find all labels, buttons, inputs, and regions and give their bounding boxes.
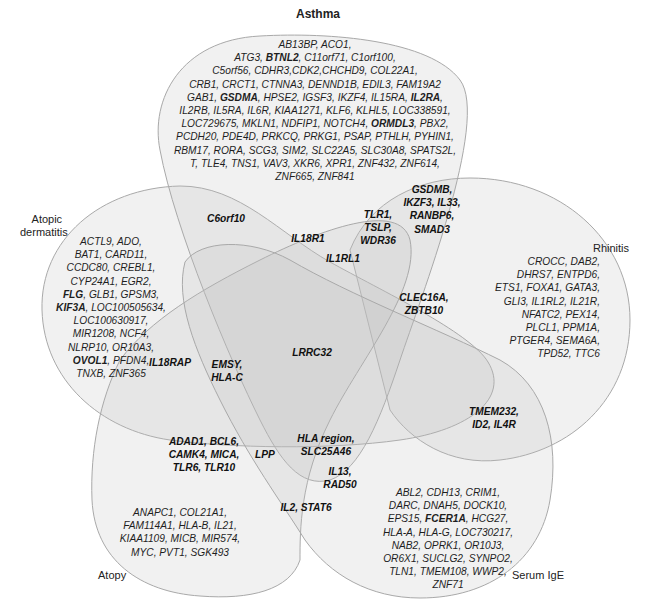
region-il1rl1: IL1RL1 (318, 252, 368, 265)
gene-list-line: CRB1, CRCT1, CTNNA3, DENND1B, EDIL3, FAM… (160, 78, 470, 91)
region-rhinitis-only: CROCC, DAB2,DHRS7, ENTPD6,ETS1, FOXA1, G… (480, 255, 600, 361)
gene-list-line: KIF3A, LOC100505634, (42, 301, 180, 314)
gene-list-line: TLN1, TMEM108, WWP2, (368, 565, 528, 578)
gene-list-line: MYC, PVT1, SGK493 (110, 546, 250, 559)
gene-list-line: BAT1, CARD11, (42, 248, 180, 261)
gene-list-line: DARC, DNAH5, DOCK10, (368, 499, 528, 512)
region-atopy-only: ANAPC1, COL21A1,FAM114A1, HLA-B, IL21,KI… (110, 506, 250, 559)
gene-list-line: PCDH20, PDE4D, PRKCQ, PRKG1, PSAP, PTHLH… (160, 130, 470, 143)
gene-list-line: ATG3, BTNL2, C11orf71, C1orf100, (160, 51, 470, 64)
gene-list-line: NFATC2, PEX14, (480, 308, 600, 321)
gene-list-line: ZNF71 (368, 578, 528, 591)
region-asthma-only: AB13BP, ACO1,ATG3, BTNL2, C11orf71, C1or… (160, 38, 470, 183)
region-hla-region: HLA region, SLC25A46 (290, 432, 362, 458)
set-label-atopy: Atopy (98, 569, 126, 582)
region-serum-ige-only: ABL2, CDH13, CRIM1,DARC, DNAH5, DOCK10,E… (368, 486, 528, 592)
gene-list-line: FLG, GLB1, GPSM3, (42, 288, 180, 301)
set-label-rhinitis: Rhinitis (593, 242, 629, 255)
region-il18rap: IL18RAP (142, 356, 198, 369)
gene-list-line: GLI3, IL1RL2, IL21R, (480, 295, 600, 308)
gene-list-line: RBM17, RORA, SCG3, SIM2, SLC22A5, SLC30A… (160, 144, 470, 157)
gene-list-line: HLA-A, HLA-G, LOC730217, (368, 526, 528, 539)
gene-list-line: EPS15, FCER1A, HCG27, (368, 512, 528, 525)
gene-list-line: IL2RB, IL5RA, IL6R, KIAA1271, KLF6, KLHL… (160, 104, 470, 117)
gene-list-line: ETS1, FOXA1, GATA3, (480, 281, 600, 294)
gene-list-line: PTGER4, SEMA6A, (480, 334, 600, 347)
gene-list-line: LOC100630917, (42, 314, 180, 327)
gene-list-line: NAB2, OPRK1, OR10J3, (368, 539, 528, 552)
region-emsy: EMSY, HLA-C (205, 358, 249, 384)
set-label-atopic-dermatitis-line1: Atopic (20, 213, 68, 226)
gene-list-line: PLCL1, PPM1A, (480, 321, 600, 334)
region-tlr1: TLR1, TSLP, WDR36 (352, 208, 404, 248)
gene-list-line: KIAA1109, MICB, MIR574, (110, 532, 250, 545)
gene-list-line: C5orf56, CDHR3,CDK2,CHCHD9, COL22A1, (160, 64, 470, 77)
gene-list-line: TPD52, TTC6 (480, 347, 600, 360)
set-label-asthma: Asthma (296, 8, 340, 21)
region-il2: IL2, STAT6 (274, 501, 338, 514)
gene-list-line: AB13BP, ACO1, (160, 38, 470, 51)
gene-list-line: DHRS7, ENTPD6, (480, 268, 600, 281)
gene-list-line: CCDC80, CREBL1, (42, 261, 180, 274)
gene-list-line: ANAPC1, COL21A1, (110, 506, 250, 519)
gene-list-line: OR6X1, SUCLG2, SYNPO2, (368, 552, 528, 565)
region-gsdmb: GSDMB, IKZF3, IL33, RANBP6, SMAD3 (397, 183, 467, 236)
gene-list-line: ABL2, CDH13, CRIM1, (368, 486, 528, 499)
region-clec16a: CLEC16A, ZBTB10 (392, 291, 456, 317)
region-lpp: LPP (253, 448, 277, 461)
region-lrrc32: LRRC32 (287, 346, 337, 359)
gene-list-line: MIR1208, NCF4, (42, 327, 180, 340)
gene-list-line: LOC729675, MKLN1, NDFIP1, NOTCH4, ORMDL3… (160, 117, 470, 130)
gene-list-line: CYP24A1, EGR2, (42, 275, 180, 288)
gene-list-line: NLRP10, OR10A3, (42, 341, 180, 354)
gene-list-line: FAM114A1, HLA-B, IL21, (110, 519, 250, 532)
gene-list-line: GAB1, GSDMA, HPSE2, IGSF3, IKZF4, IL15RA… (160, 91, 470, 104)
gene-list-line: ACTL9, ADO, (42, 235, 180, 248)
region-c6orf10: C6orf10 (196, 212, 256, 225)
gene-list-line: T, TLE4, TNS1, VAV3, XKR6, XPR1, ZNF432,… (160, 157, 470, 170)
gene-list-line: ZNF665, ZNF841 (160, 170, 470, 183)
gene-list-line: CROCC, DAB2, (480, 255, 600, 268)
region-il18r1: IL18R1 (283, 232, 333, 245)
region-adad1: ADAD1, BCL6, CAMK4, MICA, TLR6, TLR10 (164, 435, 244, 475)
region-il13: IL13, RAD50 (318, 465, 362, 491)
region-tmem232: TMEM232, ID2, IL4R (460, 405, 528, 431)
venn-diagram: Asthma Atopic dermatitis Rhinitis Atopy … (0, 0, 645, 601)
